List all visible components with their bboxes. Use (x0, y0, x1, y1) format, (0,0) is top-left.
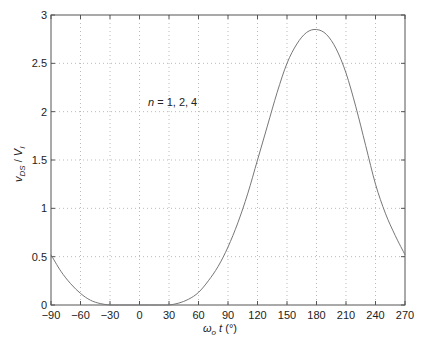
y-tick-label: 1 (41, 202, 47, 214)
x-tick-label: −30 (101, 309, 120, 321)
y-tick-label: 0.5 (32, 251, 47, 263)
y-tick-label: 2 (41, 106, 47, 118)
x-tick-label: −60 (71, 309, 90, 321)
x-tick-label: 120 (248, 309, 266, 321)
x-tick-label: 240 (366, 309, 384, 321)
x-tick-label: 270 (396, 309, 414, 321)
x-tick-label: 180 (307, 309, 325, 321)
chart: −90−60−30030609012015018021024027000.511… (0, 0, 424, 348)
x-tick-label: 150 (278, 309, 296, 321)
x-axis-label: ωo t (°) (203, 322, 237, 337)
annotation: n = 1, 2, 4 (148, 96, 197, 108)
axis-ticks: −90−60−30030609012015018021024027000.511… (32, 9, 414, 321)
y-tick-label: 3 (41, 9, 47, 21)
x-tick-label: 90 (222, 309, 234, 321)
x-tick-label: 0 (136, 309, 142, 321)
x-tick-label: 30 (163, 309, 175, 321)
x-tick-label: 60 (192, 309, 204, 321)
y-tick-label: 2.5 (32, 57, 47, 69)
x-tick-label: 210 (337, 309, 355, 321)
y-tick-label: 1.5 (32, 154, 47, 166)
y-tick-label: 0 (41, 299, 47, 311)
grid-lines (51, 15, 405, 305)
svg-text:vDS / VI: vDS / VI (12, 146, 27, 182)
y-axis-label: vDS / VI (12, 146, 27, 182)
